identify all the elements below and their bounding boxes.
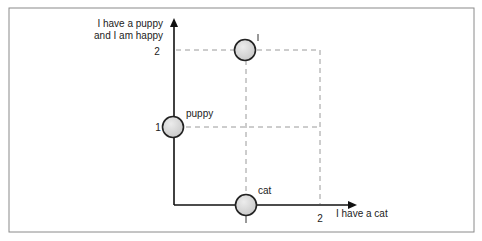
node-puppy [163, 117, 184, 138]
node-cat [236, 195, 257, 216]
node-cat-label: cat [258, 185, 272, 196]
y-tick-1: 1 [155, 122, 161, 133]
x-tick-2: 2 [317, 213, 323, 224]
node-i [235, 40, 256, 61]
y-axis-label-line1: I have a puppy [97, 18, 163, 29]
vector-space-diagram: I have a puppy and I am happy 2 1 2 I ha… [0, 0, 482, 241]
y-tick-2: 2 [154, 46, 160, 57]
node-puppy-label: puppy [186, 108, 213, 119]
y-axis-label-line2: and I am happy [94, 30, 163, 41]
x-axis-label: I have a cat [336, 208, 388, 219]
